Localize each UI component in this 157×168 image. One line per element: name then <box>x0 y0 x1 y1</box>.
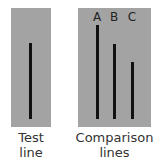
test-line-caption: Test line <box>6 130 56 160</box>
comparison-label-c: C <box>126 11 138 23</box>
comparison-lines-panel: A B C <box>78 8 151 127</box>
comparison-lines-caption: Comparison lines <box>70 130 157 160</box>
test-caption-line1: Test <box>6 130 56 145</box>
test-line <box>29 43 32 119</box>
comparison-line-a <box>96 25 99 119</box>
comparison-line-b <box>113 44 116 119</box>
comparison-label-b: B <box>108 11 120 23</box>
test-line-panel <box>11 8 51 127</box>
test-caption-line2: line <box>6 145 56 160</box>
comparison-label-a: A <box>91 11 103 23</box>
comparison-caption-line2: lines <box>70 145 157 160</box>
comparison-line-c <box>131 62 134 119</box>
comparison-caption-line1: Comparison <box>70 130 157 145</box>
